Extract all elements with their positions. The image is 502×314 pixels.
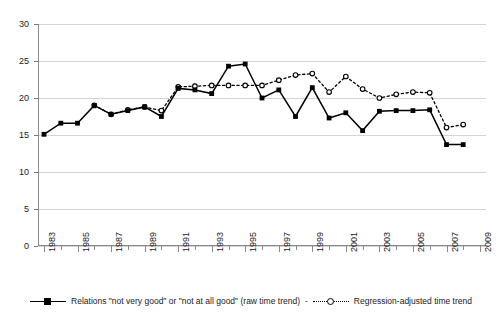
data-point-marker (343, 110, 348, 115)
data-point-marker (42, 132, 47, 137)
x-tick-label-1985: 1985 (82, 232, 91, 252)
x-tick-label-1995: 1995 (249, 232, 258, 252)
data-point-marker (75, 121, 80, 126)
data-point-marker (310, 85, 315, 90)
data-point-marker (193, 88, 198, 93)
y-axis-labels: 051015202530 (0, 24, 34, 246)
legend-label-regression-adjusted: Regression-adjusted time trend (354, 296, 472, 306)
data-point-marker (159, 108, 164, 113)
data-point-marker (293, 114, 298, 119)
series-regression-adjusted (92, 71, 466, 130)
data-point-marker (226, 83, 231, 88)
data-point-marker (360, 87, 365, 92)
data-point-marker (377, 96, 382, 101)
legend-label-raw-time-trend: Relations "not very good" or "not at all… (71, 296, 300, 306)
data-point-marker (461, 142, 466, 147)
x-axis-labels: 1983198519871989199119931995199719992001… (38, 252, 486, 292)
data-point-marker (461, 122, 466, 127)
data-point-marker (260, 96, 265, 101)
legend-swatch-regression-adjusted (313, 297, 349, 306)
data-point-marker (327, 90, 332, 95)
data-point-marker (209, 91, 214, 96)
x-tick-mark-2004 (396, 246, 397, 250)
x-tick-mark-1992 (195, 246, 196, 250)
series-line (44, 64, 463, 145)
data-point-marker (277, 78, 282, 83)
series-layer (38, 24, 486, 246)
x-tick-label-2009: 2009 (484, 232, 493, 252)
data-point-marker (209, 83, 214, 88)
x-tick-label-2001: 2001 (350, 232, 359, 252)
x-tick-mark-1994 (229, 246, 230, 250)
data-point-marker (427, 107, 432, 112)
y-tick-label-20: 20 (19, 94, 29, 103)
data-point-marker (444, 142, 449, 147)
y-tick-label-15: 15 (19, 131, 29, 140)
chart-legend: Relations "not very good" or "not at all… (0, 292, 502, 310)
x-tick-label-1997: 1997 (283, 232, 292, 252)
y-tick-label-30: 30 (19, 20, 29, 29)
data-point-marker (344, 74, 349, 79)
x-tick-mark-2000 (329, 246, 330, 250)
data-point-marker (109, 112, 114, 117)
legend-swatch-raw-time-trend (30, 297, 66, 306)
data-point-marker (92, 103, 97, 108)
data-point-marker (293, 73, 298, 78)
y-tick-label-5: 5 (24, 205, 29, 214)
data-point-marker (226, 64, 231, 69)
x-tick-label-1987: 1987 (115, 232, 124, 252)
chart-container: 051015202530 198319851987198919911993199… (0, 0, 502, 314)
x-tick-mark-1998 (296, 246, 297, 250)
x-tick-label-2007: 2007 (451, 232, 460, 252)
plot-area (38, 24, 486, 246)
data-point-marker (411, 108, 416, 113)
data-point-marker (360, 128, 365, 133)
y-tick-label-25: 25 (19, 57, 29, 66)
data-point-marker (125, 108, 130, 113)
data-point-marker (276, 88, 281, 93)
data-point-marker (411, 90, 416, 95)
x-tick-mark-2008 (463, 246, 464, 250)
data-point-marker (243, 83, 248, 88)
data-point-marker (260, 83, 265, 88)
data-point-marker (142, 105, 147, 110)
x-tick-mark-1990 (161, 246, 162, 250)
x-tick-label-1991: 1991 (182, 232, 191, 252)
x-tick-mark-2006 (430, 246, 431, 250)
x-tick-label-2005: 2005 (417, 232, 426, 252)
x-tick-label-1989: 1989 (149, 232, 158, 252)
data-point-marker (310, 71, 315, 76)
data-point-marker (444, 125, 449, 130)
data-point-marker (327, 116, 332, 121)
x-tick-mark-1986 (94, 246, 95, 250)
data-point-marker (176, 86, 181, 91)
data-point-marker (394, 108, 399, 113)
x-tick-label-1999: 1999 (316, 232, 325, 252)
data-point-marker (159, 114, 164, 119)
legend-separator: - (305, 296, 308, 306)
series-raw-time-trend (42, 62, 466, 147)
x-tick-mark-1984 (61, 246, 62, 250)
data-point-marker (377, 109, 382, 114)
data-point-marker (58, 121, 63, 126)
data-point-marker (427, 91, 432, 96)
x-tick-mark-1996 (262, 246, 263, 250)
x-tick-mark-1988 (128, 246, 129, 250)
x-tick-mark-2002 (363, 246, 364, 250)
y-tick-label-0: 0 (24, 242, 29, 251)
x-tick-label-1993: 1993 (216, 232, 225, 252)
x-tick-label-1983: 1983 (48, 232, 57, 252)
y-tick-label-10: 10 (19, 168, 29, 177)
x-tick-label-2003: 2003 (383, 232, 392, 252)
data-point-marker (394, 92, 399, 97)
data-point-marker (243, 62, 248, 67)
